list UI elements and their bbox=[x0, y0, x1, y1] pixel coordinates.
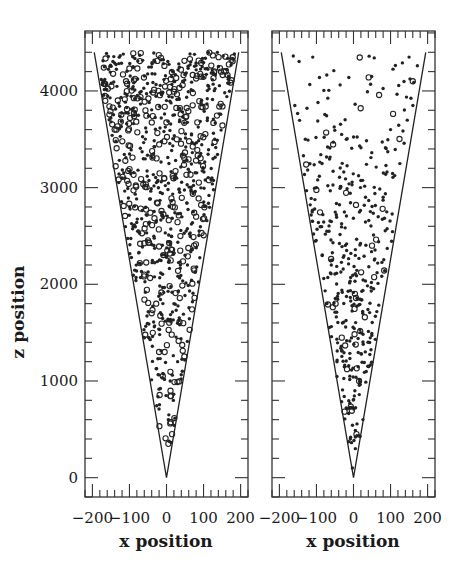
x-tick-label: −100 bbox=[109, 509, 150, 527]
data-points bbox=[100, 50, 236, 446]
y-tick-label: 3000 bbox=[40, 179, 78, 197]
survey-cone-boundary bbox=[94, 52, 238, 477]
y-tick-label: 0 bbox=[68, 469, 78, 487]
y-tick-label: 2000 bbox=[40, 275, 78, 293]
x-tick-label: −200 bbox=[259, 509, 300, 527]
x-tick-label: −200 bbox=[72, 509, 113, 527]
panel-left: −200−100010020001000200030004000 bbox=[40, 31, 255, 527]
x-tick-label: 200 bbox=[226, 509, 255, 527]
x-tick-label: 0 bbox=[349, 509, 359, 527]
y-tick-label: 1000 bbox=[40, 372, 78, 390]
x-tick-label: −100 bbox=[296, 509, 337, 527]
x-tick-label: 200 bbox=[413, 509, 442, 527]
data-points bbox=[292, 54, 420, 469]
x-tick-label: 0 bbox=[162, 509, 172, 527]
plot-frame bbox=[272, 31, 435, 497]
y-axis-label: z position bbox=[8, 266, 28, 359]
scatter-figure: −200−100010020001000200030004000−200−100… bbox=[0, 0, 463, 564]
panel-right: −200−1000100200 bbox=[259, 31, 442, 527]
x-tick-label: 100 bbox=[189, 509, 218, 527]
x-tick-label: 100 bbox=[376, 509, 405, 527]
x-axis-label-right: x position bbox=[306, 531, 399, 551]
x-axis-label-left: x position bbox=[119, 531, 212, 551]
y-tick-label: 4000 bbox=[40, 82, 78, 100]
